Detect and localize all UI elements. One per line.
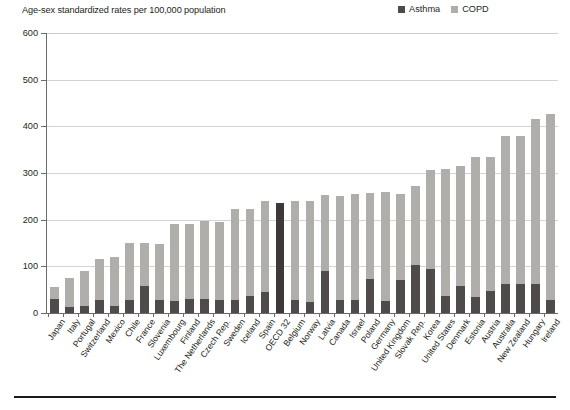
footer-divider <box>14 396 556 398</box>
x-tick-label: Japan <box>45 317 67 342</box>
chart-plot: 0100200300400500600 JapanItalyPortugalSw… <box>0 0 570 410</box>
x-axis-tick-labels: JapanItalyPortugalSwitzerlandMexicoChile… <box>0 0 570 410</box>
figure-root: Age-sex standardized rates per 100,000 p… <box>0 0 570 410</box>
